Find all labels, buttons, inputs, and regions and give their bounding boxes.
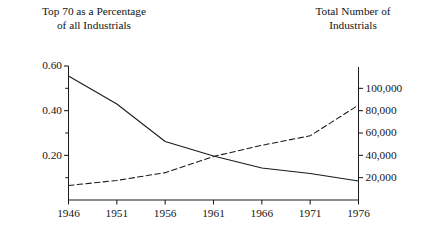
- left-tick-label-1: 0.40: [10, 105, 62, 116]
- x-tick-label-0: 1946: [43, 208, 95, 219]
- right-tick-label-2: 60,000: [366, 127, 428, 138]
- x-tick-label-5: 1971: [284, 208, 336, 219]
- series-line-top-70-percentage: [69, 76, 359, 181]
- data-series: [69, 76, 359, 185]
- x-tick-label-2: 1956: [139, 208, 191, 219]
- right-tick-label-0: 20,000: [366, 172, 428, 183]
- left-tick-label-0: 0.20: [10, 150, 62, 161]
- axes: [64, 66, 363, 205]
- x-tick-label-3: 1961: [188, 208, 240, 219]
- left-tick-label-2: 0.60: [10, 60, 62, 71]
- right-tick-label-3: 80,000: [366, 105, 428, 116]
- right-tick-label-4: 100,000: [366, 83, 428, 94]
- plot-area: [0, 0, 428, 233]
- chart-figure: Top 70 as a Percentage of all Industrial…: [0, 0, 428, 233]
- x-tick-label-1: 1951: [91, 208, 143, 219]
- x-tick-label-6: 1976: [333, 208, 385, 219]
- series-line-total-industrials: [69, 105, 359, 185]
- right-tick-label-1: 40,000: [366, 150, 428, 161]
- x-tick-label-4: 1966: [236, 208, 288, 219]
